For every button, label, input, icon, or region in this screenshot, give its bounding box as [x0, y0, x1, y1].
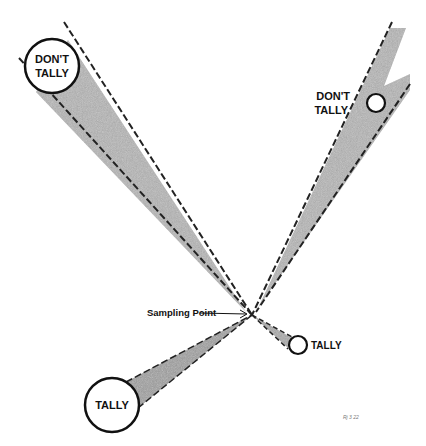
beam-right-small [252, 315, 292, 349]
sampling-point-label: Sampling Point [147, 307, 217, 318]
beam-top-right [252, 22, 410, 315]
label-top-left-line1: DON'T [35, 53, 69, 65]
tree-circle-top-left [25, 39, 79, 93]
label-top-left-line2: TALLY [35, 67, 69, 79]
tree-circle-right-small [289, 336, 307, 354]
diagram-canvas: DON'T TALLY DON'T TALLY TALLY TALLY Samp… [0, 0, 426, 446]
tree-circle-top-right [367, 94, 385, 112]
label-bottom-left: TALLY [95, 399, 129, 411]
label-right-small: TALLY [311, 340, 342, 351]
label-top-right-line2: TALLY [314, 104, 348, 116]
footnote: Rj 3 22 [343, 414, 359, 420]
label-top-right-line1: DON'T [316, 90, 350, 102]
beam-bottom-left [126, 315, 252, 408]
